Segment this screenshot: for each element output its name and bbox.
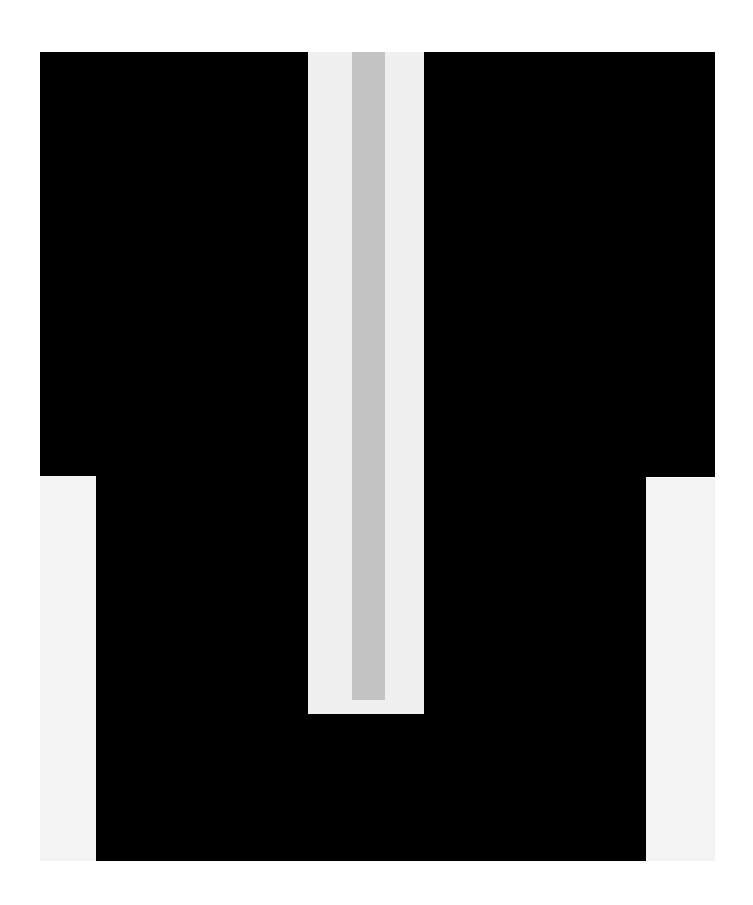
light-left-panel [40, 476, 96, 861]
gray-vertical-stripe [352, 52, 385, 700]
light-right-panel [646, 478, 715, 861]
